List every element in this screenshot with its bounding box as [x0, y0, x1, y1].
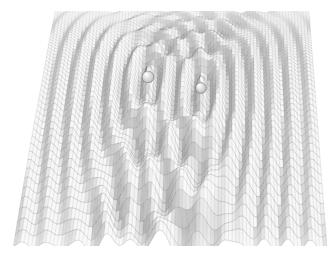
ripple-surface-render: [0, 0, 335, 258]
render-canvas: Two-source ripple interference on a wire…: [0, 0, 335, 258]
